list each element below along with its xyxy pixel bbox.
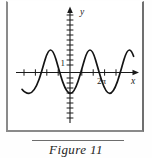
caption-divider bbox=[32, 140, 124, 141]
figure-container: y x 1 2π Figure 11 bbox=[0, 0, 152, 158]
graph-svg: y x 1 2π bbox=[8, 2, 142, 129]
plot-area: y x 1 2π bbox=[8, 2, 142, 130]
x-tick-label-two-pi: 2π bbox=[97, 76, 107, 86]
figure-frame: y x 1 2π bbox=[6, 1, 144, 132]
x-axis-arrowhead bbox=[133, 70, 140, 76]
figure-caption: Figure 11 bbox=[0, 142, 152, 158]
y-tick-label-one: 1 bbox=[61, 58, 66, 68]
y-axis bbox=[67, 7, 74, 124]
x-axis-label: x bbox=[130, 76, 136, 86]
y-axis-label: y bbox=[79, 7, 85, 17]
y-axis-arrowhead bbox=[67, 7, 73, 14]
cosine-curve bbox=[22, 50, 134, 93]
